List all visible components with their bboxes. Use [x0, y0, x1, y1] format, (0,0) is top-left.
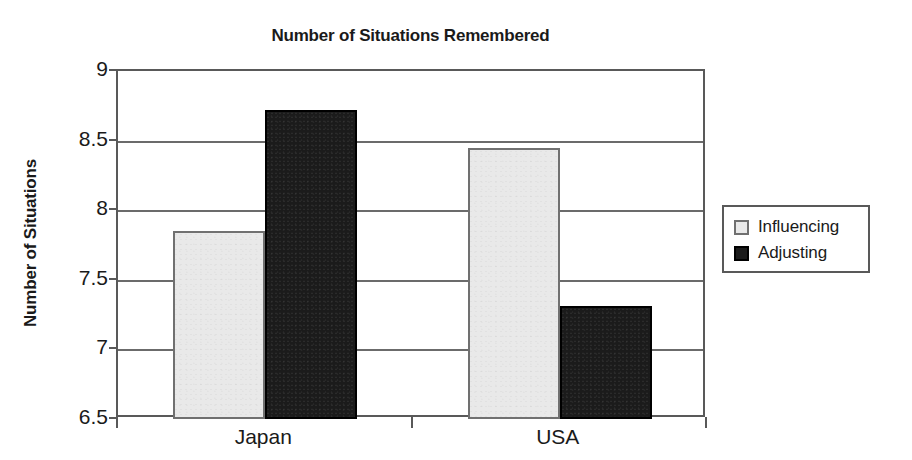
y-axis-tick-label: 8.5 — [79, 127, 108, 151]
y-axis-title: Number of Situations — [18, 69, 44, 417]
y-axis-tick-label: 8 — [96, 196, 108, 220]
x-axis-tick-mark — [411, 417, 413, 428]
bar-japan-influencing — [173, 231, 265, 419]
legend-item-influencing: Influencing — [734, 214, 868, 240]
chart-legend: Influencing Adjusting — [722, 205, 870, 273]
bar-usa-influencing — [468, 148, 560, 419]
y-axis-title-text: Number of Situations — [21, 159, 41, 327]
x-axis-tick-label: Japan — [235, 425, 292, 449]
y-axis-tick-label: 7.5 — [79, 266, 108, 290]
bar-chart: Number of Situations Remembered Number o… — [0, 0, 912, 460]
legend-item-adjusting: Adjusting — [734, 240, 868, 266]
gridline — [118, 210, 703, 212]
y-axis-tick-label: 7 — [96, 335, 108, 359]
y-axis-tick-labels: 98.587.576.5 — [46, 69, 108, 417]
plot-inner — [118, 71, 703, 415]
x-axis-tick-label: USA — [536, 425, 579, 449]
chart-title: Number of Situations Remembered — [116, 26, 705, 46]
y-axis-tick-label: 9 — [96, 57, 108, 81]
y-axis-tick-label: 6.5 — [79, 405, 108, 429]
bar-japan-adjusting — [265, 110, 357, 419]
legend-swatch-adjusting-icon — [734, 246, 749, 261]
gridline — [118, 141, 703, 143]
x-axis-tick-mark — [116, 417, 118, 428]
legend-label-adjusting: Adjusting — [758, 243, 827, 263]
x-axis-tick-mark — [705, 417, 707, 428]
legend-label-influencing: Influencing — [758, 217, 839, 237]
legend-swatch-influencing-icon — [734, 220, 749, 235]
bar-usa-adjusting — [560, 306, 652, 419]
plot-area — [116, 69, 705, 417]
